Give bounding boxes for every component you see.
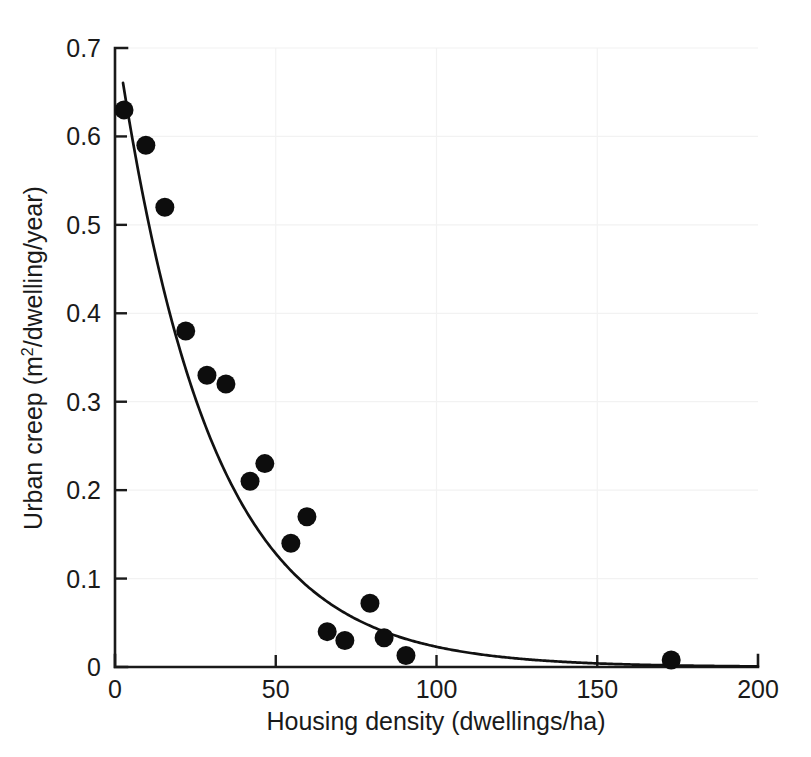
y-axis-title: Urban creep (m2/dwelling/year) xyxy=(19,186,47,530)
data-point-group xyxy=(115,100,681,669)
svg-text:Urban creep (m2/dwelling/year): Urban creep (m2/dwelling/year) xyxy=(19,186,47,530)
urban-creep-figure: 00.10.20.30.40.50.60.7 050100150200 Hous… xyxy=(0,0,811,757)
y-tick-label: 0.3 xyxy=(66,388,101,416)
y-axis-title-superscript: 2 xyxy=(19,347,36,356)
x-tick-label: 150 xyxy=(576,675,618,703)
data-point xyxy=(297,507,316,526)
gridlines xyxy=(115,48,758,667)
data-point xyxy=(115,100,134,119)
x-tick-label: 0 xyxy=(108,675,122,703)
y-tick-label: 0.4 xyxy=(66,299,101,327)
y-tick-marks xyxy=(115,136,127,578)
y-axis-spine xyxy=(115,48,127,667)
x-tick-label: 50 xyxy=(262,675,290,703)
data-point xyxy=(281,534,300,553)
data-point xyxy=(255,454,274,473)
y-axis-title-tail: /dwelling/year) xyxy=(19,186,47,347)
x-tick-label: 200 xyxy=(737,675,779,703)
data-point xyxy=(360,594,379,613)
data-point xyxy=(396,646,415,665)
y-tick-label: 0.1 xyxy=(66,565,101,593)
data-point xyxy=(241,472,260,491)
y-tick-label: 0.2 xyxy=(66,476,101,504)
y-tick-label: 0.6 xyxy=(66,122,101,150)
data-point xyxy=(318,622,337,641)
data-point xyxy=(216,375,235,394)
data-point xyxy=(375,628,394,647)
data-point xyxy=(155,198,174,217)
y-tick-labels: 00.10.20.30.40.50.60.7 xyxy=(66,34,101,681)
data-point xyxy=(662,650,681,669)
y-tick-label: 0.7 xyxy=(66,34,101,62)
x-tick-labels: 050100150200 xyxy=(108,675,779,703)
y-tick-label: 0.5 xyxy=(66,211,101,239)
data-point xyxy=(176,321,195,340)
data-point xyxy=(136,136,155,155)
y-axis-title-main: Urban creep (m xyxy=(19,356,47,530)
data-point xyxy=(335,631,354,650)
y-tick-label: 0 xyxy=(87,653,101,681)
x-axis-title: Housing density (dwellings/ha) xyxy=(266,707,605,735)
x-tick-label: 100 xyxy=(416,675,458,703)
scatter-plot-canvas: 00.10.20.30.40.50.60.7 050100150200 Hous… xyxy=(0,0,811,757)
data-point xyxy=(197,366,216,385)
